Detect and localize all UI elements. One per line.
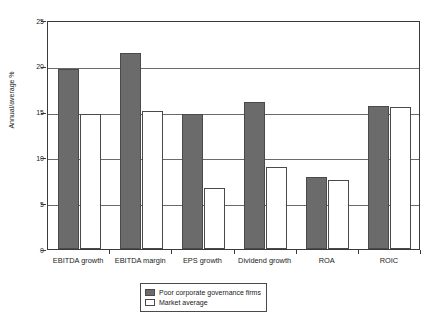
x-axis: EBITDA growthEBITDA marginEPS growthDivi… [47,250,420,274]
y-tick-label: 15 [10,109,44,116]
gridline [48,205,419,206]
x-tick-mark [171,250,172,254]
x-tick-mark [358,250,359,254]
bar [266,167,287,249]
legend-swatch-icon [145,299,155,306]
chart-legend: Poor corporate governance firmsMarket av… [140,283,267,312]
x-tick-label: Dividend growth [234,256,296,265]
x-tick-label: EBITDA growth [47,256,109,265]
y-tick-mark [41,250,46,251]
y-tick-mark [41,204,46,205]
y-tick-label: 5 [10,201,44,208]
bar [182,114,203,249]
y-tick-mark [41,21,46,22]
y-tick-label: 10 [10,155,44,162]
legend-swatch-icon [145,289,155,296]
y-tick-label: 25 [10,18,44,25]
y-tick-mark [41,113,46,114]
bar [58,69,79,249]
legend-label: Poor corporate governance firms [159,289,261,297]
gridline [48,68,419,69]
y-axis: Annual/average % 0510152025 [0,0,44,313]
bar [120,53,141,249]
x-tick-mark [234,250,235,254]
x-tick-label: EPS growth [171,256,233,265]
bar [390,107,411,249]
bar [204,188,225,249]
y-tick-mark [41,67,46,68]
y-axis-title: Annual/average % [8,40,16,160]
x-tick-mark [420,250,421,254]
legend-item: Market average [145,298,261,307]
bar [142,111,163,249]
x-tick-label: ROIC [358,256,420,265]
legend-label: Market average [159,299,208,307]
x-tick-mark [109,250,110,254]
y-tick-label: 0 [10,247,44,254]
y-tick-label: 20 [10,63,44,70]
bar [328,180,349,249]
plot-area [47,21,420,250]
x-tick-label: ROA [296,256,358,265]
y-tick-mark [41,158,46,159]
legend-item: Poor corporate governance firms [145,288,261,297]
x-tick-label: EBITDA margin [109,256,171,265]
bar [306,177,327,249]
bar [244,102,265,249]
bar [368,106,389,249]
gridline [48,159,419,160]
chart-figure: Annual/average % 0510152025 EBITDA growt… [0,0,437,313]
bar [80,114,101,249]
gridline [48,114,419,115]
x-tick-mark [296,250,297,254]
